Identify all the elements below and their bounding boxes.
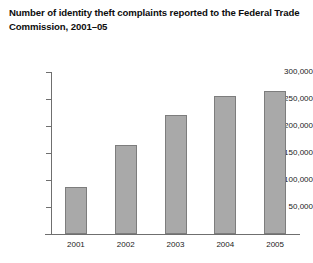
bar-2002	[115, 145, 137, 234]
plot-area: 50,000100,000150,000200,000250,000300,00…	[0, 0, 313, 263]
x-axis-tick-label: 2005	[255, 240, 295, 250]
bar-2004	[214, 96, 236, 234]
x-axis-tick-label: 2001	[56, 240, 96, 250]
y-axis-tick-mark	[46, 72, 52, 73]
y-axis-tick-mark	[46, 180, 52, 181]
x-axis-tick-label: 2003	[156, 240, 196, 250]
y-axis-tick-mark	[46, 153, 52, 154]
y-axis-tick-label: 300,000	[269, 68, 313, 76]
y-axis-tick-mark	[46, 207, 52, 208]
bar-2003	[165, 115, 187, 234]
bar-2005	[264, 91, 286, 234]
x-axis-tick-label: 2002	[106, 240, 146, 250]
y-axis-tick-mark	[46, 99, 52, 100]
x-axis-tick-label: 2004	[205, 240, 245, 250]
y-axis-tick-mark	[46, 126, 52, 127]
x-axis-line	[45, 234, 300, 235]
identity-theft-complaints-bar-chart: Number of identity theft complaints repo…	[0, 0, 313, 263]
bar-2001	[65, 187, 87, 234]
